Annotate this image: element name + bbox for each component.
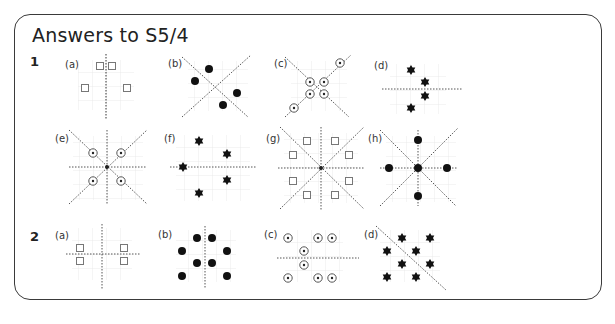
figure-1g (276, 125, 366, 213)
part-label-2b: (b) (158, 229, 172, 240)
page-title: Answers to S5/4 (32, 24, 189, 46)
figure-1d (382, 62, 467, 117)
figure-1c (283, 55, 358, 120)
figure-2a (64, 226, 144, 292)
question-number-2: 2 (30, 229, 39, 244)
figure-1f (170, 133, 260, 205)
figure-1b (180, 55, 260, 119)
figure-1a (78, 58, 138, 120)
figure-2d (376, 228, 456, 292)
figure-2b (174, 226, 244, 290)
figure-1h (378, 128, 463, 208)
figure-2c (283, 228, 363, 288)
part-label-1a: (a) (65, 59, 79, 70)
part-label-2c: (c) (264, 229, 277, 240)
figure-1e (65, 128, 150, 206)
question-number-1: 1 (30, 54, 39, 69)
